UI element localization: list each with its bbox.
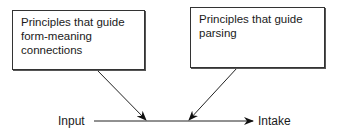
intake-label: Intake bbox=[258, 114, 291, 128]
box-line: Principles that guide bbox=[21, 15, 144, 29]
box-parsing-principles: Principles that guide parsing bbox=[190, 7, 325, 68]
input-label: Input bbox=[58, 114, 85, 128]
arrow-parsing-to-line bbox=[189, 68, 237, 120]
box-line: form-meaning bbox=[21, 29, 144, 43]
box-line: Principles that guide bbox=[199, 12, 324, 26]
box-form-meaning-principles: Principles that guide form-meaning conne… bbox=[12, 10, 145, 70]
arrow-form-meaning-to-line bbox=[97, 70, 146, 120]
box-line: connections bbox=[21, 43, 144, 57]
box-line: parsing bbox=[199, 26, 324, 40]
